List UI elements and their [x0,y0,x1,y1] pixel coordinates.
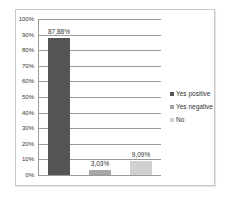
bar-yes-negative [89,170,111,175]
legend-item-yes-negative: Yes negative [170,100,213,113]
legend-swatch-icon [170,105,174,109]
legend-item-no: No [170,113,213,126]
data-label: 3,03% [80,160,120,167]
plot-area: 87,88%3,03%9,09% [38,19,161,175]
y-tick-label: 100% [12,16,34,22]
y-tick-label: 60% [12,78,34,84]
legend-swatch-icon [170,92,174,96]
y-tick-label: 70% [12,63,34,69]
data-label: 87,88% [39,28,79,35]
y-axis-line [38,19,39,175]
y-tick-label: 90% [12,32,34,38]
y-tick-label: 10% [12,156,34,162]
legend-swatch-icon [170,118,174,122]
legend-label: Yes negative [176,103,213,110]
y-tick-label: 20% [12,141,34,147]
y-tick-label: 40% [12,110,34,116]
y-tick-label: 0% [12,172,34,178]
bar-no [130,161,152,175]
y-tick-label: 30% [12,125,34,131]
y-tick-label: 50% [12,94,34,100]
data-label: 9,09% [121,151,161,158]
legend-label: Yes positive [176,90,210,97]
y-tick-label: 80% [12,47,34,53]
legend-item-yes-positive: Yes positive [170,87,213,100]
bar-yes-positive [48,38,70,175]
legend: Yes positive Yes negative No [170,87,213,126]
gridline [38,19,161,20]
gridline [38,175,161,176]
legend-label: No [176,116,184,123]
